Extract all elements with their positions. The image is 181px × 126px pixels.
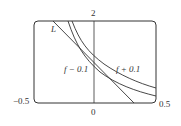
- x-tick-right: 0.5: [159, 100, 170, 109]
- upper-band-label: f + 0.1: [116, 65, 140, 74]
- x-tick-origin: 0: [91, 108, 96, 117]
- y-tick-top: 2: [91, 9, 96, 18]
- line-L: [53, 21, 134, 103]
- curve-f-plus: [72, 21, 156, 88]
- x-tick-left: −0.5: [13, 97, 29, 106]
- lower-band-label: f − 0.1: [64, 65, 88, 74]
- curve-f-minus: [68, 21, 156, 96]
- line-label: L: [51, 25, 56, 34]
